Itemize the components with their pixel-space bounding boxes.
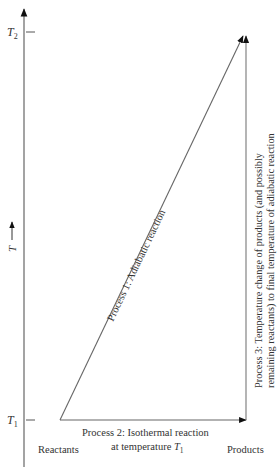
t-axis-letter: T	[6, 245, 18, 252]
t1-label: T1	[7, 413, 18, 429]
process-3-label-line1: Process 3: Temperature change of product…	[253, 152, 265, 388]
process-1-label: Process 1: Adiabatic reaction	[105, 207, 168, 323]
products-label: Products	[227, 444, 264, 455]
process-3-label-group: Process 3: Temperature change of product…	[253, 133, 277, 388]
t2-label: T2	[7, 25, 18, 41]
thermo-process-diagram: T2 T1 T Process 1: Adiabatic reaction Pr…	[0, 0, 279, 467]
temperature-axis	[24, 9, 35, 467]
process-2-label-line1: Process 2: Isothermal reaction	[82, 427, 210, 438]
t-axis-title: T	[6, 222, 18, 252]
process-3-label-line2: remaining reactants) to final temperatur…	[265, 133, 277, 388]
reactants-label: Reactants	[38, 444, 79, 455]
process-2-label-line2: at temperature T1	[111, 441, 184, 455]
process-1-label-group: Process 1: Adiabatic reaction	[105, 207, 168, 323]
